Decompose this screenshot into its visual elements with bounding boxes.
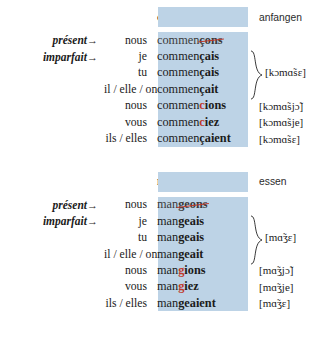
table-header-row: manger essen [0, 172, 336, 192]
verb-gloss-manger: essen [242, 176, 336, 187]
ipa-cell: [kɔmɑ̃sje] [242, 116, 336, 128]
verb-form-cell: mangeons [152, 197, 242, 212]
tense-label-present: présent→ [0, 34, 104, 46]
verb-ending: iez [184, 279, 198, 293]
verb-stem: commen [157, 98, 199, 112]
pronoun-cell: vous [104, 116, 152, 129]
verb-form-cell: commençons [152, 33, 242, 48]
table-body-commencer: [kɔmɑ̃sɛ] présent→ nous commençons impar… [0, 32, 336, 147]
pronoun-cell: nous [104, 34, 152, 47]
table-row: imparfait→ je mangeais [0, 213, 336, 229]
verb-ending: çons [199, 33, 222, 48]
table-body-manger: [mɑ̃ʒɛ] présent→ nous mangeons imparfait… [0, 197, 336, 312]
verb-form-cell: commençais [152, 49, 242, 64]
verb-stem: man [157, 279, 178, 293]
tense-text-imparfait: imparfait [43, 215, 87, 227]
pronoun-cell: tu [104, 231, 152, 244]
pronoun-cell: vous [104, 280, 152, 293]
verb-stem: man [157, 230, 178, 244]
ipa-cell: [mɑ̃ʒɛ] [242, 297, 336, 309]
ipa-cell: [mɑ̃ʒje] [242, 281, 336, 293]
conjugation-table-manger: manger essen [mɑ̃ʒɛ] présent→ nous mange… [0, 172, 336, 312]
table-row: nous commencions [kɔmɑ̃sjɔ̃] [0, 98, 336, 114]
verb-form-cell: mangiez [152, 279, 242, 294]
arrow-icon: → [87, 199, 98, 211]
verb-stem: man [157, 263, 178, 277]
header-highlight-band [158, 7, 248, 27]
conjugation-table-commencer: commencer anfangen [kɔmɑ̃sɛ] présent→ no… [0, 7, 336, 147]
table-row: ils / elles commençaient [kɔmɑ̃sɛ] [0, 130, 336, 146]
table-row: ils / elles mangeaient [mɑ̃ʒɛ] [0, 295, 336, 311]
verb-stem: commen [157, 131, 199, 145]
verb-ending: çais [199, 49, 219, 63]
verb-stem: commen [157, 33, 199, 47]
pronoun-cell: ils / elles [104, 297, 152, 310]
ipa-cell: [mɑ̃ʒjɔ̃] [242, 264, 336, 276]
table-row: imparfait→ je commençais [0, 48, 336, 64]
verb-form-cell: mangeais [152, 214, 242, 229]
ipa-brace-manger: [mɑ̃ʒɛ] [265, 231, 296, 243]
verb-ending: geais [178, 230, 204, 244]
verb-form-cell: commençait [152, 82, 242, 97]
verb-stem: man [157, 296, 178, 310]
verb-ending: ions [184, 263, 205, 277]
verb-form-cell: mangeais [152, 230, 242, 245]
verb-ending: çaient [199, 131, 230, 145]
ipa-cell: [kɔmɑ̃sjɔ̃] [242, 100, 336, 112]
tense-label-imparfait: imparfait→ [0, 215, 104, 227]
pronoun-cell: nous [104, 99, 152, 112]
verb-stem: man [157, 247, 178, 261]
verb-stem: commen [157, 49, 199, 63]
verb-stem: commen [157, 115, 199, 129]
pronoun-cell: nous [104, 264, 152, 277]
verb-form-cell: commençaient [152, 131, 242, 146]
pronoun-cell: je [104, 50, 152, 63]
verb-form-cell: commenciez [152, 115, 242, 130]
table-row: vous mangiez [mɑ̃ʒje] [0, 279, 336, 295]
table-row: il / elle / on commençait [0, 81, 336, 97]
pronoun-cell: il / elle / on [104, 248, 152, 261]
verb-ending: çais [199, 65, 219, 79]
verb-ending: iez [205, 115, 219, 129]
verb-form-cell: commençais [152, 65, 242, 80]
verb-ending: geons [178, 197, 207, 212]
table-row: vous commenciez [kɔmɑ̃sje] [0, 114, 336, 130]
verb-form-cell: mangeait [152, 247, 242, 262]
conjugation-reference-sheet: commencer anfangen [kɔmɑ̃sɛ] présent→ no… [0, 7, 336, 344]
table-row: présent→ nous mangeons [0, 197, 336, 213]
pronoun-cell: ils / elles [104, 132, 152, 145]
pronoun-cell: il / elle / on [104, 83, 152, 96]
tense-text-present: présent [53, 34, 88, 46]
arrow-icon: → [87, 34, 98, 46]
verb-ending: çait [199, 82, 218, 96]
verb-stem: man [157, 197, 178, 211]
verb-form-cell: commencions [152, 98, 242, 113]
header-highlight-band [158, 172, 248, 192]
verb-ending: geais [178, 214, 204, 228]
table-header-row: commencer anfangen [0, 7, 336, 27]
verb-stem: man [157, 214, 178, 228]
tense-label-imparfait: imparfait→ [0, 51, 104, 63]
verb-ending: ions [205, 98, 226, 112]
pronoun-cell: je [104, 215, 152, 228]
verb-form-cell: mangeaient [152, 296, 242, 311]
verb-stem: commen [157, 82, 199, 96]
table-row: nous mangions [mɑ̃ʒjɔ̃] [0, 262, 336, 278]
verb-form-cell: mangions [152, 263, 242, 278]
table-row: il / elle / on mangeait [0, 246, 336, 262]
pronoun-cell: tu [104, 66, 152, 79]
verb-ending: geait [178, 247, 203, 261]
verb-ending: geaient [178, 296, 216, 310]
table-row: présent→ nous commençons [0, 32, 336, 48]
ipa-brace-commencer: [kɔmɑ̃sɛ] [265, 66, 306, 78]
tense-label-present: présent→ [0, 199, 104, 211]
verb-stem: commen [157, 65, 199, 79]
tense-text-present: présent [53, 199, 88, 211]
tense-text-imparfait: imparfait [43, 51, 87, 63]
arrow-icon: → [87, 215, 98, 227]
pronoun-cell: nous [104, 198, 152, 211]
arrow-icon: → [87, 51, 98, 63]
ipa-cell: [kɔmɑ̃sɛ] [242, 133, 336, 145]
verb-gloss-commencer: anfangen [242, 12, 336, 23]
